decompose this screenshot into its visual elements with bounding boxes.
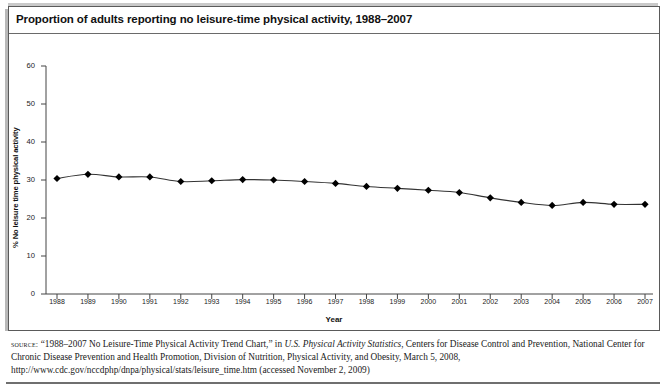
- x-tick-label: 2005: [568, 298, 598, 305]
- x-axis-title: Year: [0, 315, 668, 324]
- data-point-marker: [518, 199, 525, 206]
- x-tick-label: 2001: [444, 298, 474, 305]
- x-tick-label: 1991: [135, 298, 165, 305]
- data-point-marker: [208, 177, 215, 184]
- y-tick-label: 30: [13, 175, 35, 184]
- x-tick-label: 1993: [197, 298, 227, 305]
- x-tick-label: 2007: [630, 298, 660, 305]
- line-chart-svg: [0, 0, 668, 332]
- source-publication-title: U.S. Physical Activity Statistics: [284, 339, 401, 349]
- data-point-marker: [270, 176, 277, 183]
- y-tick-label: 50: [13, 99, 35, 108]
- x-tick-label: 2004: [537, 298, 567, 305]
- plot-area: % No leisure time physical activity Year…: [0, 0, 668, 332]
- bottom-divider: [6, 382, 660, 384]
- y-axis-title: % No leisure time physical activity: [11, 0, 20, 108]
- data-point-marker: [53, 175, 60, 182]
- data-point-marker: [610, 201, 617, 208]
- data-point-marker: [177, 178, 184, 185]
- data-point-marker: [363, 183, 370, 190]
- x-tick-label: 2006: [599, 298, 629, 305]
- data-point-marker: [115, 173, 122, 180]
- x-tick-label: 1998: [351, 298, 381, 305]
- data-point-marker: [641, 201, 648, 208]
- y-tick-label: 0: [13, 289, 35, 298]
- data-point-marker: [580, 199, 587, 206]
- data-point-marker: [84, 171, 91, 178]
- data-point-marker: [332, 180, 339, 187]
- data-point-marker: [301, 178, 308, 185]
- x-tick-label: 1989: [73, 298, 103, 305]
- x-tick-label: 1990: [104, 298, 134, 305]
- x-tick-label: 1994: [228, 298, 258, 305]
- x-tick-label: 2003: [506, 298, 536, 305]
- x-tick-label: 1996: [290, 298, 320, 305]
- x-tick-label: 1992: [166, 298, 196, 305]
- data-point-marker: [549, 202, 556, 209]
- y-tick-label: 60: [13, 61, 35, 70]
- source-text-1: “1988–2007 No Leisure-Time Physical Acti…: [38, 339, 284, 349]
- y-tick-label: 20: [13, 213, 35, 222]
- x-tick-label: 1999: [382, 298, 412, 305]
- x-tick-label: 1995: [259, 298, 289, 305]
- data-point-marker: [394, 185, 401, 192]
- data-point-marker: [146, 173, 153, 180]
- source-note: source: “1988–2007 No Leisure-Time Physi…: [11, 338, 659, 376]
- data-point-marker: [239, 176, 246, 183]
- y-tick-label: 40: [13, 137, 35, 146]
- y-tick-label: 10: [13, 251, 35, 260]
- data-point-marker: [456, 189, 463, 196]
- data-point-marker: [425, 187, 432, 194]
- figure-page: Proportion of adults reporting no leisur…: [0, 0, 668, 389]
- data-point-marker: [487, 194, 494, 201]
- x-tick-label: 2002: [475, 298, 505, 305]
- x-tick-label: 2000: [413, 298, 443, 305]
- x-tick-label: 1997: [321, 298, 351, 305]
- source-kicker: source:: [11, 340, 38, 349]
- x-tick-label: 1988: [42, 298, 72, 305]
